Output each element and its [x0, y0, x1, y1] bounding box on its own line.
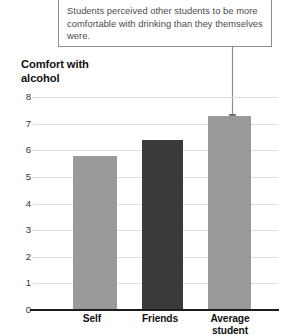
bar-chart-figure: Students perceived other students to be …: [0, 0, 290, 336]
bar-self: [73, 156, 117, 310]
x-label-friends: Friends: [122, 313, 198, 325]
y-axis-title-line1: Comfort with: [21, 58, 89, 70]
bar-friends: [142, 140, 183, 310]
y-tick-label: 3: [21, 225, 31, 235]
y-tick-label: 2: [21, 252, 31, 262]
x-label-line1: Friends: [142, 313, 178, 324]
x-label-line1: Self: [83, 313, 101, 324]
y-tick-label: 8: [21, 92, 31, 102]
annotation-callout: Students perceived other students to be …: [58, 0, 272, 47]
x-label-self: Self: [53, 313, 131, 325]
y-axis-title: Comfort with alcohol: [21, 58, 141, 85]
x-axis-line: [30, 309, 279, 311]
y-axis-title-line2: alcohol: [21, 72, 59, 84]
y-tick-label: 5: [21, 172, 31, 182]
y-tick-label: 4: [21, 199, 31, 209]
x-label-average-student: Average student: [190, 313, 270, 336]
y-tick-label: 7: [21, 119, 31, 129]
x-label-line1: Average: [210, 313, 249, 324]
y-tick-label: 6: [21, 145, 31, 155]
plot-area: [33, 97, 278, 310]
y-tick-label: 1: [21, 278, 31, 288]
x-label-line2: student: [212, 325, 248, 336]
bar-average-student: [208, 116, 251, 310]
gridline: [33, 97, 278, 98]
annotation-text: Students perceived other students to be …: [67, 5, 264, 43]
